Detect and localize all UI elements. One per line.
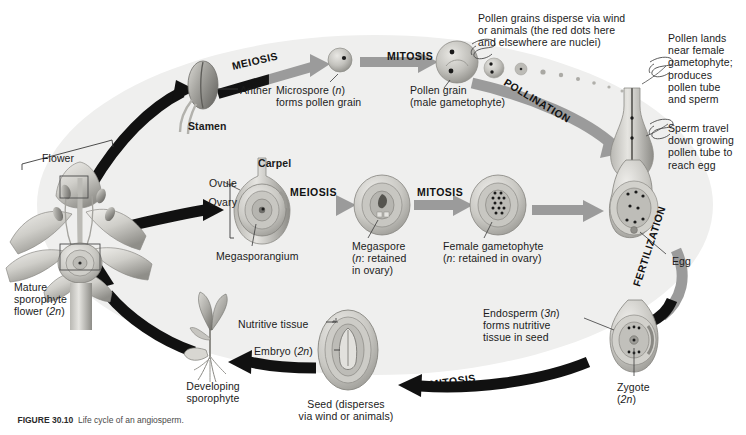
stage-word-meiosis-mid: MEIOSIS (290, 186, 337, 198)
label-line: near female (668, 44, 725, 56)
label-line: (2n) (617, 393, 636, 405)
label-line: forms pollen grain (276, 96, 361, 108)
label-line: Zygote (617, 381, 650, 393)
figure-canvas: MEIOSISMITOSISPOLLINATIONMEIOSISMITOSISF… (0, 0, 746, 435)
label-female-gametophyte: Female gametophyte(n: retained in ovary) (443, 240, 573, 264)
label-line: Pollen grains disperse via wind (478, 12, 625, 24)
label-carpel: Carpel (258, 157, 318, 169)
label-pollen-grain: Pollen grain(male gametophyte) (410, 84, 520, 108)
label-line: Megaspore (352, 240, 405, 252)
label-line: produces (668, 69, 712, 81)
label-microspore: Microspore (n)forms pollen grain (276, 84, 380, 108)
label-line: Female gametophyte (443, 240, 543, 252)
figure-caption: FIGURE 30.10 Life cycle of an angiosperm… (8, 405, 184, 435)
label-line: Ovary (208, 196, 237, 208)
label-pollen-lands: Pollen landsnear femalegametophyte;produ… (668, 32, 746, 105)
label-line: Seed (disperses (307, 398, 384, 410)
label-line: Sperm travel (668, 122, 729, 134)
label-line: sporophyte (14, 293, 67, 305)
label-line: forms nutritive (483, 319, 550, 331)
label-line: in ovary) (352, 264, 393, 276)
label-line: tissue in seed (483, 331, 549, 343)
label-line: Egg (672, 255, 691, 267)
label-line: (male gametophyte) (410, 96, 505, 108)
label-line: (n: retained in ovary) (443, 252, 542, 264)
figure-caption-text: Life cycle of an angiosperm. (73, 415, 184, 425)
label-nutritive-tissue: Nutritive tissue (238, 318, 334, 330)
label-line: pollen tube to (668, 146, 732, 158)
label-line: or animals (the red dots here (478, 24, 615, 36)
label-ovary: Ovary (197, 196, 237, 208)
label-line: Pollen grain (410, 84, 467, 96)
label-line: reach egg (668, 159, 716, 171)
label-line: Developing (186, 380, 240, 392)
label-endosperm: Endosperm (3n)forms nutritivetissue in s… (483, 307, 579, 344)
label-line: (n: retained (352, 252, 406, 264)
label-zygote: Zygote(2n) (617, 381, 677, 405)
label-line: Stamen (188, 120, 227, 132)
label-line: Nutritive tissue (238, 318, 308, 330)
label-line: sporophyte (187, 392, 240, 404)
diagram-graphics (0, 0, 746, 435)
label-line: pollen tube (668, 81, 720, 93)
stage-word-mitosis-mid: MITOSIS (417, 186, 463, 198)
label-line: Mature (14, 281, 47, 293)
label-line: Embryo (2n) (254, 345, 313, 357)
label-stamen: Stamen (188, 120, 248, 132)
label-line: via wind or animals) (299, 410, 394, 422)
label-embryo: Embryo (2n) (254, 345, 334, 357)
label-line: Megasporangium (216, 250, 299, 262)
label-line: Flower (42, 152, 74, 164)
label-line: Endosperm (3n) (483, 307, 560, 319)
label-line: and sperm (668, 93, 719, 105)
label-megasporangium: Megasporangium (216, 250, 326, 262)
label-line: Carpel (258, 157, 291, 169)
label-line: flower (2n) (14, 305, 65, 317)
figure-caption-label: FIGURE 30.10 (17, 415, 73, 425)
label-line: Pollen lands (668, 32, 726, 44)
label-egg: Egg (672, 255, 712, 267)
label-flower: Flower (42, 152, 112, 164)
label-seed: Seed (dispersesvia wind or animals) (288, 398, 404, 422)
label-sperm-travel: Sperm traveldown growingpollen tube tore… (668, 122, 746, 171)
label-line: Anther (240, 84, 272, 96)
label-line: Microspore (n) (276, 84, 345, 96)
label-line: down growing (668, 134, 734, 146)
label-ovule: Ovule (197, 177, 237, 189)
label-line: gametophyte; (668, 56, 733, 68)
stage-word-mitosis-top: MITOSIS (387, 50, 433, 62)
label-line: Ovule (209, 177, 237, 189)
label-mature-sporophyte: Maturesporophyteflower (2n) (14, 281, 92, 318)
label-line: and elsewhere are nuclei) (478, 36, 601, 48)
label-developing-sporophyte: Developingsporophyte (168, 380, 258, 404)
label-megaspore: Megaspore(n: retainedin ovary) (352, 240, 438, 277)
label-pollen-disperse: Pollen grains disperse via windor animal… (478, 12, 654, 49)
